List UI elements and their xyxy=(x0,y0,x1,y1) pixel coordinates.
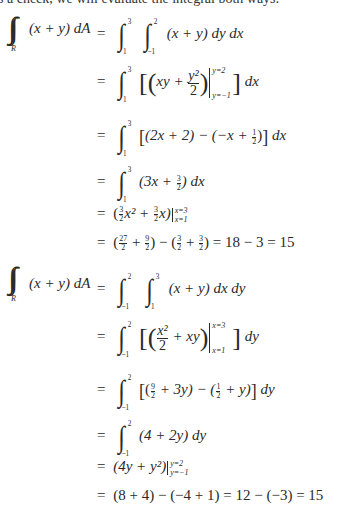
step-9: = ∫2−1 [(92 + 3y) − (12 + y)] dy xyxy=(97,376,275,406)
integral-icon: ∫31 xyxy=(118,68,128,98)
lhs-integrand: (x + y) dA xyxy=(29,20,90,37)
integral-icon: ∫2−1 xyxy=(118,323,128,353)
step-3: = ∫31 [(2x + 2) − (−x + 12)] dx xyxy=(97,122,286,152)
step-6: = (272 + 92) − (32 + 32) = 18 − 3 = 15 xyxy=(97,234,295,252)
integral-icon: ∫2−1 xyxy=(144,20,154,50)
integral-icon: ∫2−1 xyxy=(118,275,128,305)
step-5: = (32x² + 32x)x=3x=1 xyxy=(97,205,195,223)
step-10: = ∫2−1 (4 + 2y) dy xyxy=(97,422,206,452)
integral-icon: ∫2−1 xyxy=(118,376,128,406)
region-label: R xyxy=(11,44,16,53)
step-12: = (8 + 4) − (−4 + 1) = 12 − (−3) = 15 xyxy=(97,487,323,504)
intro-text: s a check, we will evaluate the integral… xyxy=(0,0,279,7)
integral-icon: ∫31 xyxy=(146,275,156,305)
step-1: = ∫31 ∫2−1 (x + y) dy dx xyxy=(97,20,243,50)
integral-icon: ∫31 xyxy=(118,20,128,50)
result-1: = 18 − 3 = 15 xyxy=(213,234,295,250)
step-2: = ∫31 [(xy + y²2)y=2y=−1] dx xyxy=(97,68,259,98)
result-2: (8 + 4) − (−4 + 1) = 12 − (−3) = 15 xyxy=(113,487,323,503)
step-8: = ∫2−1 [(x²2 + xy)x=3x=1] dy xyxy=(97,323,259,353)
region-label: R xyxy=(11,294,16,303)
step-4: = ∫31 (3x + 32) dx xyxy=(97,168,205,198)
integral-icon: ∫2−1 xyxy=(118,422,128,452)
step-7: = ∫2−1 ∫31 (x + y) dx dy xyxy=(97,275,245,305)
step-11: = (4y + y²)y=2y=−1 xyxy=(97,458,190,475)
integral-icon: ∫31 xyxy=(118,168,128,198)
equals-sign: = xyxy=(97,25,105,41)
lhs-integrand: (x + y) dA xyxy=(29,275,90,292)
integral-icon: ∫31 xyxy=(118,122,128,152)
